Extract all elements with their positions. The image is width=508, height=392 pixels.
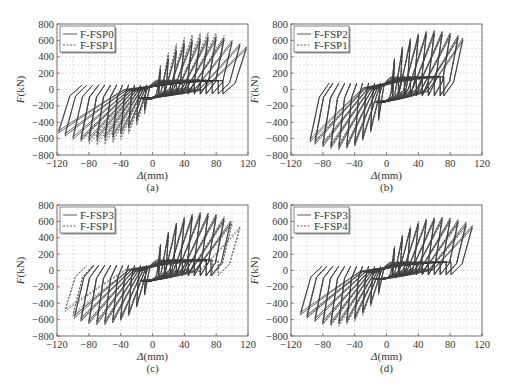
- x-tick-label: 40: [413, 158, 424, 169]
- y-tick-label: 0: [283, 265, 288, 276]
- y-tick-label: −600: [266, 133, 288, 144]
- y-tick-label: 800: [272, 200, 288, 211]
- chart-svg-d: −120−80−4004080120−800−600−400−200020040…: [254, 196, 508, 392]
- y-tick-label: −200: [266, 100, 288, 111]
- y-axis-title: F(kN): [14, 75, 27, 104]
- y-tick-label: −200: [266, 281, 288, 292]
- x-tick-label: 80: [211, 339, 222, 350]
- y-tick-label: 0: [49, 84, 54, 95]
- panel-label: (a): [146, 181, 159, 194]
- y-axis-title: F(kN): [248, 75, 261, 104]
- y-tick-label: 800: [38, 19, 54, 30]
- y-tick-label: −800: [266, 331, 288, 342]
- y-axis-title: F(kN): [14, 256, 27, 285]
- y-tick-label: 0: [49, 265, 54, 276]
- panel-label: (b): [380, 181, 393, 194]
- y-tick-label: −800: [32, 331, 54, 342]
- y-tick-label: −800: [32, 150, 54, 161]
- x-tick-label: −80: [315, 339, 331, 350]
- legend: F-FSP2F-FSP1: [294, 26, 351, 54]
- y-tick-label: 600: [272, 216, 288, 227]
- legend-entry: F-FSP4: [314, 220, 348, 232]
- y-tick-label: 400: [38, 51, 54, 62]
- y-tick-label: −600: [32, 314, 54, 325]
- y-tick-label: 200: [38, 249, 54, 260]
- y-tick-label: 200: [38, 68, 54, 79]
- y-tick-label: 600: [38, 216, 54, 227]
- y-tick-label: 600: [272, 35, 288, 46]
- x-tick-label: −80: [81, 158, 97, 169]
- y-tick-label: 400: [272, 232, 288, 243]
- y-tick-label: 200: [272, 68, 288, 79]
- x-tick-label: 40: [413, 339, 424, 350]
- x-tick-label: 0: [150, 339, 155, 350]
- x-tick-label: −40: [346, 339, 362, 350]
- chart-svg-b: −120−80−4004080120−800−600−400−200020040…: [254, 0, 508, 196]
- y-tick-label: −200: [32, 100, 54, 111]
- chart-panel-a: −120−80−4004080120−800−600−400−200020040…: [0, 0, 254, 196]
- chart-panel-d: −120−80−4004080120−800−600−400−200020040…: [254, 196, 508, 392]
- y-tick-label: 200: [272, 249, 288, 260]
- y-tick-label: −400: [266, 117, 288, 128]
- chart-panel-b: −120−80−4004080120−800−600−400−200020040…: [254, 0, 508, 196]
- y-tick-label: 800: [272, 19, 288, 30]
- y-tick-label: −400: [32, 117, 54, 128]
- panel-label: (c): [146, 362, 159, 375]
- chart-panel-c: −120−80−4004080120−800−600−400−200020040…: [0, 196, 254, 392]
- y-tick-label: 400: [38, 232, 54, 243]
- y-tick-label: 0: [283, 84, 288, 95]
- y-tick-label: 800: [38, 200, 54, 211]
- x-tick-label: 40: [179, 339, 190, 350]
- y-tick-label: −400: [266, 298, 288, 309]
- legend: F-FSP3F-FSP4: [294, 207, 351, 235]
- x-tick-label: 0: [150, 158, 155, 169]
- x-tick-label: −40: [346, 158, 362, 169]
- y-tick-label: −800: [266, 150, 288, 161]
- x-tick-label: 80: [445, 158, 456, 169]
- y-tick-label: 600: [38, 35, 54, 46]
- chart-svg-a: −120−80−4004080120−800−600−400−200020040…: [0, 0, 254, 196]
- x-tick-label: 40: [179, 158, 190, 169]
- y-tick-label: −600: [266, 314, 288, 325]
- x-tick-label: −80: [315, 158, 331, 169]
- legend-entry: F-FSP1: [80, 220, 114, 232]
- x-tick-label: 120: [474, 339, 490, 350]
- legend: F-FSP3F-FSP1: [60, 207, 117, 235]
- x-tick-label: −40: [112, 158, 128, 169]
- legend: F-FSP0F-FSP1: [60, 26, 117, 54]
- x-tick-label: 0: [384, 158, 389, 169]
- legend-entry: F-FSP1: [80, 39, 114, 51]
- chart-svg-c: −120−80−4004080120−800−600−400−200020040…: [0, 196, 254, 392]
- y-tick-label: −600: [32, 133, 54, 144]
- x-tick-label: −80: [81, 339, 97, 350]
- y-axis-title: F(kN): [248, 256, 261, 285]
- y-tick-label: 400: [272, 51, 288, 62]
- y-tick-label: −200: [32, 281, 54, 292]
- x-tick-label: 80: [211, 158, 222, 169]
- panel-label: (d): [380, 362, 393, 375]
- legend-entry: F-FSP1: [314, 39, 348, 51]
- x-tick-label: 80: [445, 339, 456, 350]
- x-tick-label: 120: [474, 158, 490, 169]
- y-tick-label: −400: [32, 298, 54, 309]
- x-tick-label: −40: [112, 339, 128, 350]
- x-tick-label: 0: [384, 339, 389, 350]
